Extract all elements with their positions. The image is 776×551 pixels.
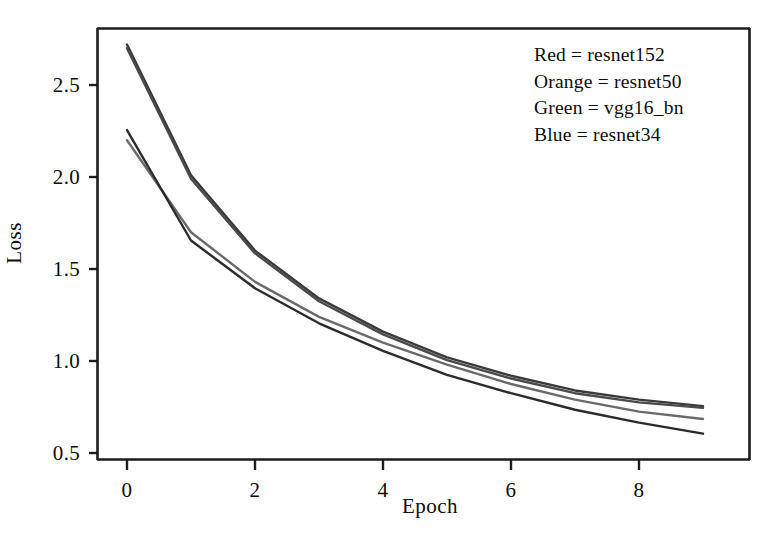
x-tick-label-4: 4: [378, 478, 389, 503]
y-tick-label-1.0: 1.0: [18, 349, 80, 374]
legend-entry-resnet152: Red = resnet152: [534, 42, 684, 69]
x-axis-ticks: [127, 460, 639, 470]
y-tick-label-1.5: 1.5: [18, 257, 80, 282]
legend-entry-vgg16-bn: Green = vgg16_bn: [534, 95, 684, 122]
legend-entry-resnet34: Blue = resnet34: [534, 122, 684, 149]
y-tick-label-0.5: 0.5: [18, 441, 80, 466]
x-tick-label-2: 2: [250, 478, 261, 503]
chart-legend: Red = resnet152 Orange = resnet50 Green …: [534, 42, 684, 148]
x-tick-label-0: 0: [122, 478, 133, 503]
y-axis-title: Loss: [2, 222, 27, 264]
x-tick-label-8: 8: [634, 478, 645, 503]
legend-entry-resnet50: Orange = resnet50: [534, 69, 684, 96]
chart-figure: 2.5 2.0 1.5 1.0 0.5 0 2 4 6 8 Loss Epoch…: [0, 0, 776, 551]
y-tick-label-2.0: 2.0: [18, 165, 80, 190]
y-tick-label-2.5: 2.5: [18, 73, 80, 98]
x-axis-title: Epoch: [402, 494, 458, 519]
x-tick-label-6: 6: [506, 478, 517, 503]
